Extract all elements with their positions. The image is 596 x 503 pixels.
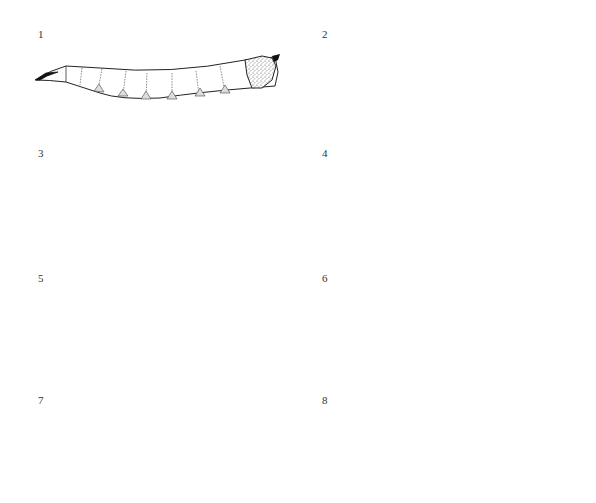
figure-label-4: 4	[322, 147, 328, 159]
figure-1	[35, 54, 280, 99]
figure-label-1: 1	[38, 28, 44, 40]
larvae-plate-svg	[0, 0, 596, 503]
figure-label-8: 8	[322, 394, 328, 406]
figure-label-7: 7	[38, 394, 44, 406]
figure-label-5: 5	[38, 272, 44, 284]
figure-label-6: 6	[322, 272, 328, 284]
illustration-plate: 1 2 3 4 5 6 7 8	[0, 0, 596, 503]
larva-1-body	[36, 57, 278, 98]
figure-label-3: 3	[38, 147, 44, 159]
figure-label-2: 2	[322, 28, 328, 40]
